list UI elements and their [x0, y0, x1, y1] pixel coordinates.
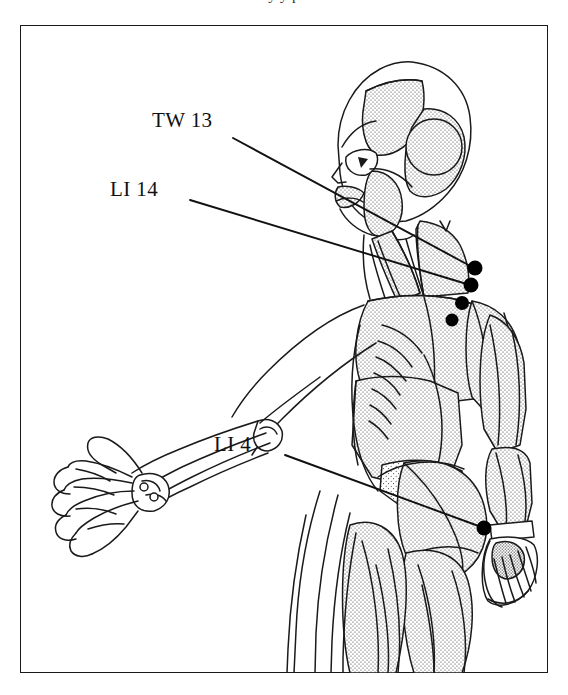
cropped-running-text: y y p — [0, 0, 568, 16]
head-group — [332, 62, 471, 240]
acupoint-marker[interactable] — [455, 296, 469, 310]
acupoint-marker[interactable] — [468, 261, 483, 276]
acupoint-marker[interactable] — [464, 278, 479, 293]
body-illustration — [52, 62, 538, 673]
right-arm-group — [480, 315, 537, 607]
acupoint-marker[interactable] — [446, 314, 459, 327]
figure-page: y y p — [0, 0, 568, 695]
point-label-tw13: TW 13 — [152, 108, 213, 133]
anatomical-figure — [20, 25, 548, 673]
cropped-running-text-glyphs: y y p — [0, 0, 568, 4]
point-label-li14: LI 14 — [110, 177, 158, 202]
acupoint-marker[interactable] — [477, 521, 492, 536]
point-label-li4: LI 4 — [214, 432, 251, 457]
left-arm-group — [52, 305, 376, 556]
